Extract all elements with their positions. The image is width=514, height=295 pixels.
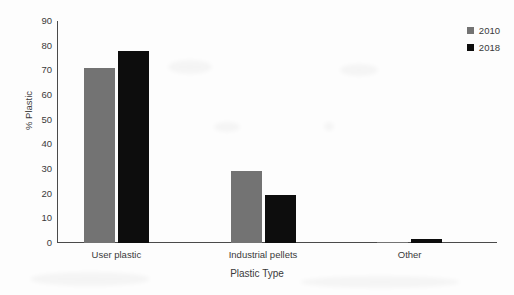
bar-chart-figure: % Plastic 0102030405060708090 User plast… bbox=[0, 0, 514, 295]
x-axis-title: Plastic Type bbox=[0, 268, 514, 279]
y-axis-tick-labels: 0102030405060708090 bbox=[22, 21, 52, 243]
bar-2010-industrial-pellets bbox=[231, 171, 262, 243]
y-axis-tick-label: 0 bbox=[26, 238, 52, 248]
bar-2018-other bbox=[411, 239, 442, 243]
bar-group bbox=[231, 21, 296, 243]
bar-2010-other bbox=[377, 242, 408, 243]
y-axis-tick-label: 80 bbox=[26, 41, 52, 51]
x-axis-category-label: Industrial pellets bbox=[229, 249, 298, 260]
y-axis-line bbox=[57, 21, 58, 243]
legend-entry-2010[interactable]: 2010 bbox=[467, 26, 500, 36]
y-axis-tick-label: 90 bbox=[26, 16, 52, 26]
y-axis-tick-label: 60 bbox=[26, 90, 52, 100]
legend-swatch-icon bbox=[467, 44, 474, 51]
legend-entry-2018[interactable]: 2018 bbox=[467, 43, 500, 53]
bar-group bbox=[377, 21, 442, 243]
x-axis-category-label: User plastic bbox=[92, 249, 142, 260]
legend-swatch-icon bbox=[467, 27, 474, 34]
bar-2018-industrial-pellets bbox=[265, 195, 296, 243]
x-axis-category-label: Other bbox=[398, 249, 422, 260]
y-axis-tick-label: 10 bbox=[26, 214, 52, 224]
legend-label: 2018 bbox=[479, 43, 500, 53]
bar-group bbox=[84, 21, 149, 243]
bar-2018-user-plastic bbox=[118, 51, 149, 243]
y-axis-tick-label: 40 bbox=[26, 140, 52, 150]
plot-area bbox=[57, 21, 497, 243]
chart-legend: 20102018 bbox=[467, 26, 500, 52]
y-axis-tick-label: 50 bbox=[26, 115, 52, 125]
bar-2010-user-plastic bbox=[84, 68, 115, 243]
y-axis-tick-label: 70 bbox=[26, 66, 52, 76]
legend-label: 2010 bbox=[479, 26, 500, 36]
y-axis-tick-label: 30 bbox=[26, 164, 52, 174]
y-axis-tick-label: 20 bbox=[26, 189, 52, 199]
